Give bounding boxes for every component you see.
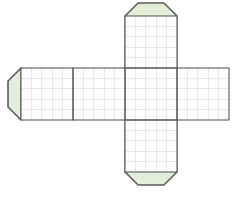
face-left-end-fill [21, 68, 73, 120]
face-right-end-fill [177, 68, 229, 120]
face-left-mid-fill [73, 68, 125, 120]
face-bottom-fill [125, 120, 177, 172]
face-top-fill [125, 16, 177, 68]
face-center-fill [125, 68, 177, 120]
cube-net-diagram: Cube net with glue flaps Unfolded cube (… [0, 0, 234, 200]
